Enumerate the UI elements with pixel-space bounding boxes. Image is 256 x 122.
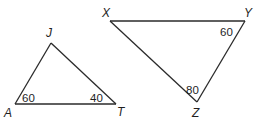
angle-label-t: 40: [90, 92, 103, 104]
edge-tj: [51, 43, 116, 104]
triangles-diagram: J A T 60 40 X Y Z 60 80: [0, 0, 256, 122]
vertex-label-a: A: [3, 106, 12, 120]
angle-label-z: 80: [186, 84, 199, 96]
angle-label-y: 60: [220, 26, 233, 38]
vertex-label-x: X: [101, 6, 111, 20]
vertex-label-t: T: [117, 105, 126, 119]
vertex-label-j: J: [45, 26, 53, 40]
triangle-jat: J A T 60 40: [3, 26, 126, 120]
triangle-xyz: X Y Z 60 80: [101, 6, 253, 120]
vertex-label-z: Z: [191, 106, 200, 120]
angle-label-a: 60: [22, 92, 35, 104]
edge-zx: [110, 21, 197, 102]
vertex-label-y: Y: [244, 6, 253, 20]
